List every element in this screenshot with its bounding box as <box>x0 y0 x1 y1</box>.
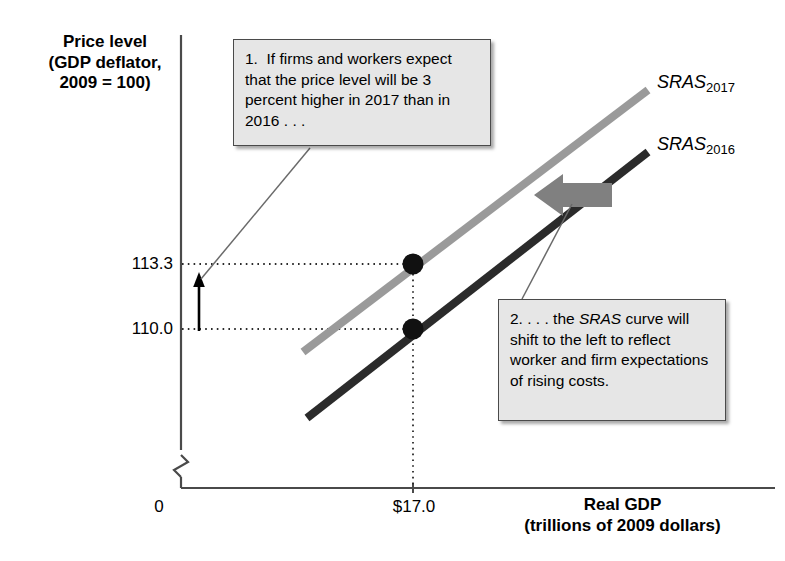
y-axis-title-line-3: 2009 = 100) <box>38 73 172 94</box>
curve-label-sras-2016: SRAS2016 <box>657 134 735 156</box>
sras-shift-diagram: Price level (GDP deflator, 2009 = 100) R… <box>0 0 785 561</box>
x-axis-tick-label-gdp: $17.0 <box>372 497 456 518</box>
annotation-callout-2-emphasis: SRAS <box>579 310 621 327</box>
callout-2-leader-line <box>522 204 572 299</box>
annotation-callout-1: 1. If firms and workers expect that the … <box>233 39 491 146</box>
annotation-callout-2: 2. . . . the SRAS curve will shift to th… <box>498 299 726 421</box>
equilibrium-dot-2016 <box>403 319 424 340</box>
y-axis-title: Price level (GDP deflator, 2009 = 100) <box>38 32 172 94</box>
y-axis-title-line-1: Price level <box>38 32 172 53</box>
y-axis-tick-label-113: 113.3 <box>93 254 173 275</box>
x-axis-title-line-2: (trillions of 2009 dollars) <box>470 516 775 537</box>
curve-label-sras-2016-base: SRAS <box>657 134 706 154</box>
y-axis-title-line-2: (GDP deflator, <box>38 53 172 74</box>
curve-label-sras-2016-subscript: 2016 <box>706 142 735 157</box>
curve-label-sras-2017-base: SRAS <box>657 72 706 92</box>
curve-label-sras-2017: SRAS2017 <box>657 72 735 94</box>
y-axis-tick-label-110: 110.0 <box>93 319 173 340</box>
axis-origin-label: 0 <box>146 497 172 518</box>
annotation-callout-1-text: If firms and workers expect that the pri… <box>245 50 452 129</box>
x-axis-title-line-1: Real GDP <box>470 495 775 516</box>
x-axis-title: Real GDP (trillions of 2009 dollars) <box>470 495 775 536</box>
y-axis-break-mark <box>174 455 188 477</box>
price-rise-arrow <box>193 272 205 331</box>
callout-1-leader-line <box>201 148 310 279</box>
annotation-callout-1-number: 1. <box>245 50 258 67</box>
annotation-callout-2-prefix: 2. . . . the <box>510 310 579 327</box>
equilibrium-dot-2017 <box>403 254 424 275</box>
curve-label-sras-2017-subscript: 2017 <box>706 80 735 95</box>
